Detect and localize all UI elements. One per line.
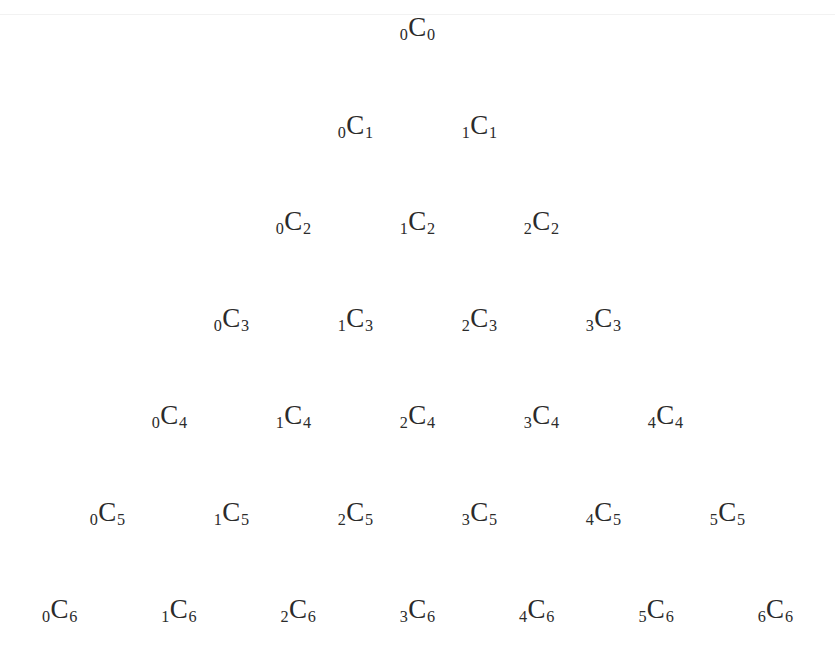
binomial-coefficient: 2C5: [294, 499, 418, 526]
combination-symbol: C: [470, 497, 488, 527]
subscript-n: 5: [613, 511, 621, 529]
subscript-n: 3: [241, 317, 249, 335]
triangle-row: 0C51C52C53C54C55C5: [0, 499, 835, 539]
binomial-coefficient: 4C4: [604, 402, 728, 429]
subscript-n: 3: [365, 317, 373, 335]
subscript-k: 4: [519, 608, 527, 626]
subscript-k: 0: [42, 608, 50, 626]
subscript-k: 3: [462, 511, 470, 529]
subscript-k: 2: [462, 317, 470, 335]
subscript-k: 0: [214, 317, 222, 335]
subscript-n: 2: [551, 220, 559, 238]
subscript-k: 5: [710, 511, 718, 529]
subscript-n: 4: [551, 414, 559, 432]
subscript-k: 4: [586, 511, 594, 529]
subscript-n: 3: [489, 317, 497, 335]
binomial-coefficient: 1C3: [294, 305, 418, 332]
triangle-row: 0C61C62C63C64C65C66C6: [0, 596, 835, 636]
combination-symbol: C: [222, 497, 240, 527]
binomial-coefficient: 2C2: [480, 208, 604, 235]
subscript-k: 3: [586, 317, 594, 335]
subscript-n: 5: [365, 511, 373, 529]
subscript-k: 1: [338, 317, 346, 335]
subscript-k: 0: [276, 220, 284, 238]
subscript-n: 5: [737, 511, 745, 529]
subscript-n: 3: [613, 317, 621, 335]
subscript-n: 5: [117, 511, 125, 529]
subscript-n: 6: [189, 608, 197, 626]
binomial-coefficient: 0C6: [0, 596, 119, 623]
subscript-n: 6: [546, 608, 554, 626]
subscript-k: 6: [758, 608, 766, 626]
subscript-k: 2: [281, 608, 289, 626]
binomial-coefficient: 1C5: [170, 499, 294, 526]
subscript-n: 2: [427, 220, 435, 238]
subscript-k: 0: [90, 511, 98, 529]
binomial-coefficient: 3C5: [418, 499, 542, 526]
combination-symbol: C: [50, 594, 68, 624]
binomial-coefficient: 1C6: [119, 596, 238, 623]
binomial-coefficient: 2C3: [418, 305, 542, 332]
subscript-n: 4: [427, 414, 435, 432]
combination-symbol: C: [170, 594, 188, 624]
binomial-coefficient: 1C1: [418, 112, 542, 139]
binomial-coefficient: 0C2: [232, 208, 356, 235]
triangle-row: 0C11C1: [0, 112, 835, 152]
binomial-coefficient: 0C0: [356, 14, 480, 41]
combination-symbol: C: [408, 206, 426, 236]
combination-symbol: C: [346, 110, 364, 140]
binomial-coefficient: 2C4: [356, 402, 480, 429]
binomial-coefficient: 0C5: [46, 499, 170, 526]
subscript-k: 1: [161, 608, 169, 626]
combination-symbol: C: [284, 206, 302, 236]
binomial-coefficient: 4C5: [542, 499, 666, 526]
triangle-row: 0C31C32C33C3: [0, 305, 835, 345]
combination-symbol: C: [284, 400, 302, 430]
binomial-coefficient: 6C6: [716, 596, 835, 623]
subscript-k: 3: [524, 414, 532, 432]
binomial-coefficient: 3C3: [542, 305, 666, 332]
combination-symbol: C: [408, 12, 426, 42]
combination-symbol: C: [98, 497, 116, 527]
subscript-n: 6: [427, 608, 435, 626]
subscript-n: 1: [489, 124, 497, 142]
binomial-coefficient: 5C5: [666, 499, 790, 526]
binomial-coefficient: 0C1: [294, 112, 418, 139]
combination-symbol: C: [766, 594, 784, 624]
subscript-k: 2: [400, 414, 408, 432]
combination-symbol: C: [408, 400, 426, 430]
combination-symbol: C: [470, 303, 488, 333]
binomial-coefficient: 3C6: [358, 596, 477, 623]
pascal-triangle-canvas: 0C00C11C10C21C22C20C31C32C33C30C41C42C43…: [0, 0, 835, 664]
subscript-n: 4: [179, 414, 187, 432]
binomial-coefficient: 1C4: [232, 402, 356, 429]
combination-symbol: C: [408, 594, 426, 624]
combination-symbol: C: [532, 400, 550, 430]
subscript-n: 6: [308, 608, 316, 626]
triangle-row: 0C41C42C43C44C4: [0, 402, 835, 442]
combination-symbol: C: [647, 594, 665, 624]
subscript-n: 5: [241, 511, 249, 529]
binomial-coefficient: 0C3: [170, 305, 294, 332]
subscript-k: 3: [400, 608, 408, 626]
combination-symbol: C: [470, 110, 488, 140]
subscript-k: 1: [400, 220, 408, 238]
subscript-k: 4: [648, 414, 656, 432]
subscript-k: 1: [214, 511, 222, 529]
combination-symbol: C: [532, 206, 550, 236]
subscript-k: 0: [152, 414, 160, 432]
triangle-row: 0C0: [0, 14, 835, 54]
combination-symbol: C: [594, 497, 612, 527]
subscript-n: 0: [427, 26, 435, 44]
combination-symbol: C: [346, 303, 364, 333]
combination-symbol: C: [594, 303, 612, 333]
subscript-n: 2: [303, 220, 311, 238]
combination-symbol: C: [528, 594, 546, 624]
subscript-n: 1: [365, 124, 373, 142]
binomial-coefficient: 3C4: [480, 402, 604, 429]
combination-symbol: C: [346, 497, 364, 527]
combination-symbol: C: [222, 303, 240, 333]
subscript-k: 0: [400, 26, 408, 44]
subscript-k: 0: [338, 124, 346, 142]
combination-symbol: C: [160, 400, 178, 430]
